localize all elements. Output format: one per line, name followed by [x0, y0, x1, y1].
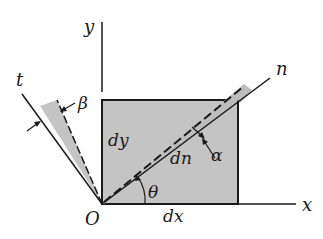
alpha-label: α [211, 145, 223, 165]
beta-arrowhead-left [34, 121, 41, 127]
y-axis-label: y [83, 16, 95, 37]
n-axis-label: n [276, 58, 288, 79]
dn-label: dn [170, 148, 192, 168]
strain-diagram: y x n t O dx dy dn θ α β [0, 0, 323, 239]
dy-label: dy [108, 130, 129, 150]
beta-label: β [77, 93, 88, 113]
t-axis-label: t [16, 69, 24, 90]
dx-label: dx [163, 206, 184, 226]
x-axis-label: x [302, 194, 312, 215]
beta-wedge [40, 100, 102, 204]
theta-label: θ [148, 182, 158, 202]
origin-label: O [85, 208, 100, 229]
